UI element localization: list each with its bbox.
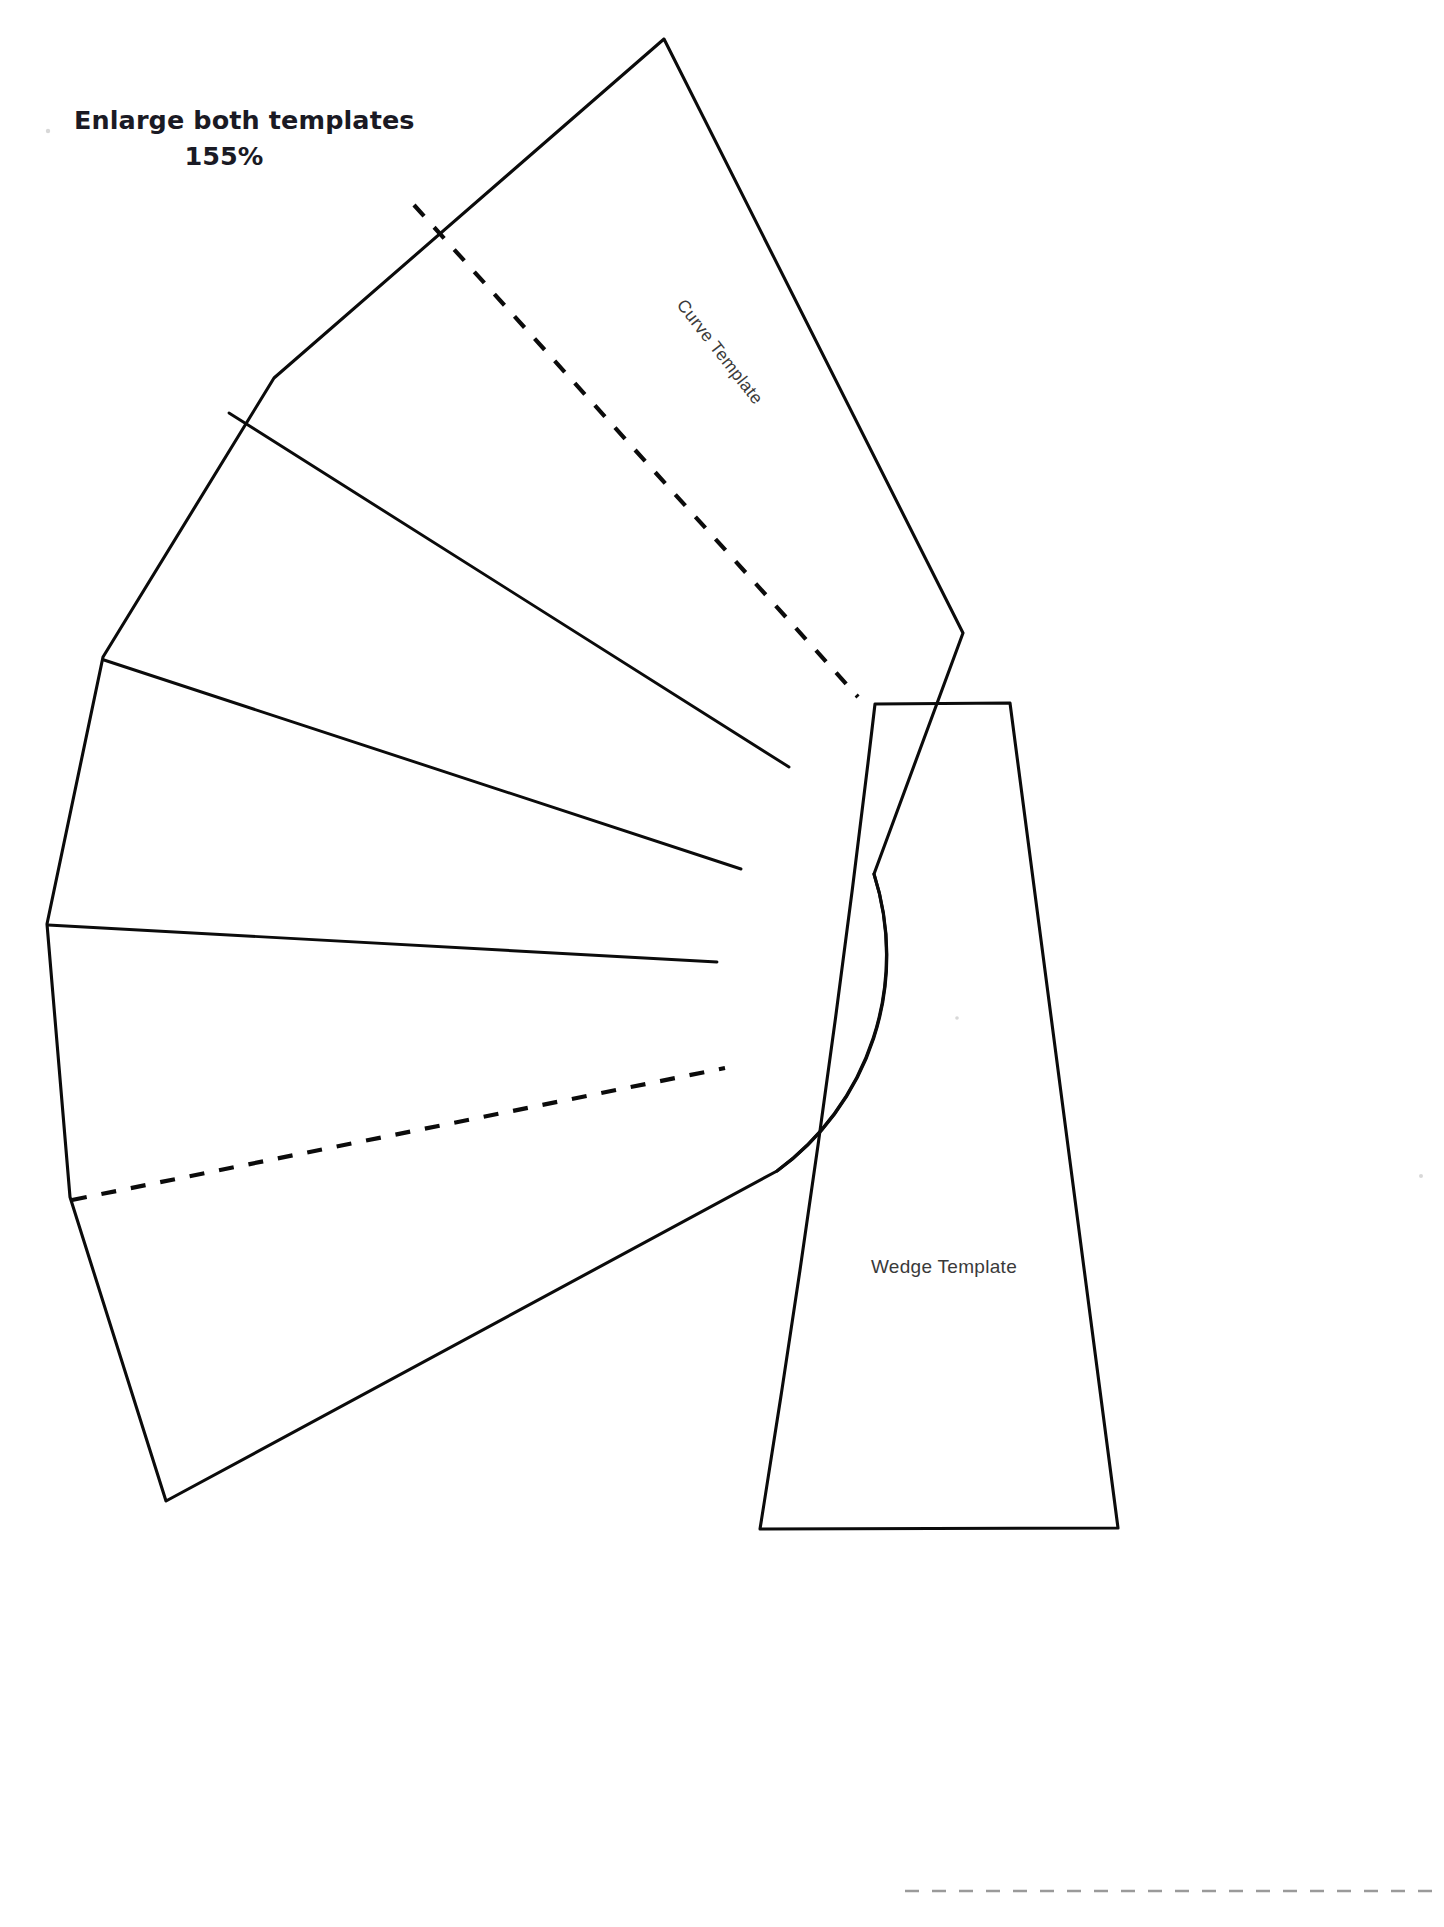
curve-segment-divider-2 xyxy=(104,660,741,869)
scan-speck xyxy=(955,1016,959,1020)
curve-segment-divider-1 xyxy=(229,413,789,767)
curve-template-outline xyxy=(47,39,963,1501)
wedge-template-outline xyxy=(760,703,1118,1529)
wedge-template-label: Wedge Template xyxy=(871,1256,1017,1277)
curve-segment-divider-3 xyxy=(48,925,717,962)
curve-fold-line-top xyxy=(414,205,858,697)
curve-template-shape[interactable]: Curve Template xyxy=(47,39,963,1501)
template-sheet-page: Enlarge both templates 155% Curve Templa… xyxy=(0,0,1444,1927)
wedge-template-shape[interactable]: Wedge Template xyxy=(760,703,1118,1529)
curve-fold-line-bottom xyxy=(72,1068,725,1200)
scan-speck xyxy=(46,129,50,133)
curve-template-label-group: Curve Template xyxy=(673,295,767,408)
curve-template-inner-arc xyxy=(777,874,887,1171)
curve-template-label: Curve Template xyxy=(673,295,767,408)
template-artboard: Curve Template Wedge Template xyxy=(0,0,1444,1927)
scan-speck xyxy=(1419,1174,1423,1178)
